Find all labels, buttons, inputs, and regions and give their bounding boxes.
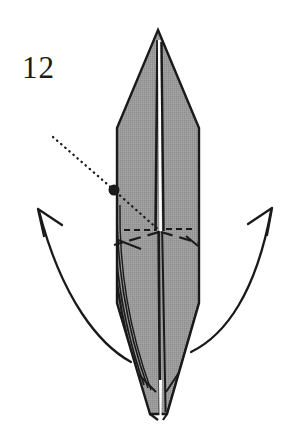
origami-step-diagram: 12 (0, 0, 307, 436)
center-slit (159, 40, 160, 231)
bottom-tip-gap (159, 380, 162, 420)
diagram-canvas: 12 (0, 0, 307, 436)
reference-dot (109, 185, 120, 196)
step-number-label: 12 (22, 50, 55, 85)
